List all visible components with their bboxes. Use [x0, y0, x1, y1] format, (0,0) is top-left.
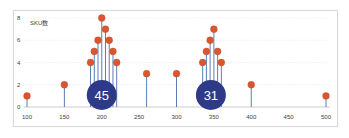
data-point [95, 37, 102, 44]
data-point [110, 48, 117, 55]
data-point [248, 81, 255, 88]
cluster-total-label: 45 [95, 88, 109, 103]
x-tick-label: 150 [59, 114, 70, 120]
stems [27, 18, 326, 107]
data-point [102, 26, 109, 33]
data-point [323, 92, 330, 99]
data-point [207, 37, 214, 44]
data-point [98, 15, 105, 22]
x-tick-label: 350 [209, 114, 220, 120]
x-tick-label: 100 [22, 114, 33, 120]
y-axis-ticks: 02468 [17, 15, 21, 110]
x-tick-label: 400 [246, 114, 257, 120]
y-tick-label: 6 [17, 37, 21, 43]
data-point [199, 59, 206, 66]
data-point [173, 70, 180, 77]
data-point [113, 59, 120, 66]
y-tick-label: 4 [17, 60, 21, 66]
data-point [106, 37, 113, 44]
data-point [87, 59, 94, 66]
y-tick-label: 2 [17, 82, 21, 88]
cluster-total-label: 31 [204, 88, 218, 103]
data-point [203, 48, 210, 55]
data-point [210, 26, 217, 33]
x-tick-label: 250 [134, 114, 145, 120]
data-point [91, 48, 98, 55]
data-point [143, 70, 150, 77]
data-point [61, 81, 68, 88]
y-axis-title: SKU数 [30, 19, 48, 27]
data-point [24, 92, 31, 99]
data-point [218, 59, 225, 66]
lollipop-chart: 02468 100150200250300350400450500 4531 S… [0, 0, 349, 138]
x-tick-label: 450 [284, 114, 295, 120]
data-point [214, 48, 221, 55]
x-tick-label: 200 [97, 114, 108, 120]
y-tick-label: 8 [17, 15, 21, 21]
x-tick-label: 500 [321, 114, 332, 120]
x-axis-ticks: 100150200250300350400450500 [22, 114, 332, 120]
x-tick-label: 300 [171, 114, 182, 120]
y-tick-label: 0 [17, 104, 21, 110]
